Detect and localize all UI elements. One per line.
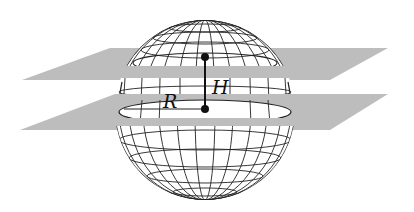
lower-center-point	[201, 105, 209, 113]
upper-center-point	[201, 53, 209, 61]
height-label: H	[211, 76, 229, 98]
sphere-planes-diagram: R H	[0, 0, 414, 212]
radius-label: R	[162, 90, 177, 112]
